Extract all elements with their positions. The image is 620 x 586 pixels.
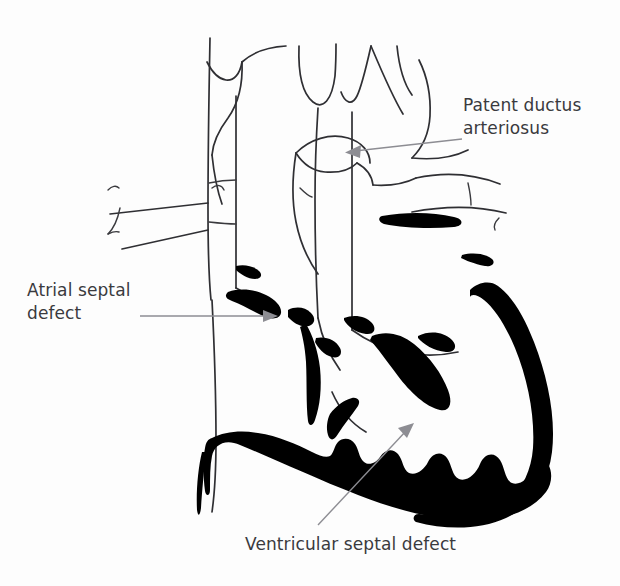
tricuspid-leaflet-upper [288, 308, 314, 327]
label-patent-ductus-arteriosus: Patent ductus arteriosus [463, 94, 581, 140]
pulmonary-branch-tick [468, 183, 471, 205]
small-vein-hook [108, 208, 120, 234]
aortic-arch-inferior-border [212, 155, 222, 204]
pulmonary-valve-cusp [300, 188, 312, 197]
label-asd-line1: Atrial septal [27, 279, 130, 302]
aortic-valve-small-cusp [461, 254, 494, 267]
left-subclavian-outline [341, 46, 371, 102]
left-innominate-vein [110, 203, 208, 214]
superior-vena-cava-left-wall [208, 38, 211, 300]
mitral-leaflet-posterior [418, 333, 455, 353]
pda-leader-line [355, 139, 462, 151]
label-ventricular-septal-defect: Ventricular septal defect [245, 533, 456, 556]
left-innominate-vein-lower [122, 230, 208, 249]
pulmonary-artery-bifurcation [373, 178, 416, 185]
ductus-arteriosus-outline [296, 153, 357, 172]
svc-cross-band-lower [209, 222, 236, 224]
atrial-small-leaflet [236, 265, 261, 279]
label-pda-line2: arteriosus [463, 117, 581, 140]
pulmonary-small-hook [494, 218, 499, 230]
pda-arrowhead-icon [345, 145, 361, 158]
left-pulmonary-artery-branch [412, 150, 468, 159]
svc-cross-band-upper [209, 180, 236, 183]
ventricular-myocardium-band [204, 432, 552, 521]
figure-canvas: Patent ductus arteriosus Atrial septal d… [0, 0, 620, 586]
mitral-leaflet-anterior [344, 316, 374, 334]
aortic-arch-superior-border [242, 46, 286, 62]
great-vessels-group [108, 38, 506, 512]
interventricular-septum-mass [327, 398, 359, 440]
right-pulmonary-artery-upper [416, 175, 500, 184]
right-arch-branch-outline [397, 46, 412, 95]
label-vsd-line1: Ventricular septal defect [245, 533, 456, 556]
ductus-arteriosus-lower [357, 163, 373, 185]
ivc-descending-line [212, 300, 216, 512]
myocardium-group [197, 213, 553, 527]
left-common-carotid-outline [299, 44, 336, 105]
label-asd-line2: defect [27, 302, 130, 325]
vsd-arrowhead-icon [398, 423, 414, 438]
label-pda-line1: Patent ductus [463, 94, 581, 117]
svc-top-hook [108, 186, 119, 190]
pulmonary-valve-band [379, 213, 461, 228]
right-pulmonary-artery-lower [412, 208, 506, 213]
label-atrial-septal-defect: Atrial septal defect [27, 279, 130, 325]
tricuspid-leaflet-lower [315, 337, 341, 357]
brachiocephalic-artery-outline [207, 62, 242, 80]
